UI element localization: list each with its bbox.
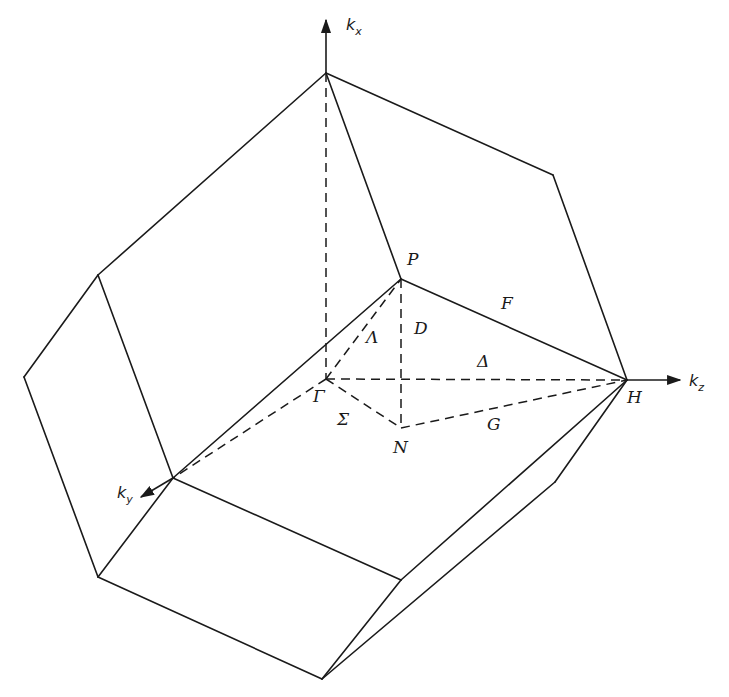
dashed-delta-gamma-H: [326, 379, 627, 380]
edge-upperleft-left: [24, 275, 98, 377]
edge-top-upperleft: [98, 73, 326, 275]
line-D-label: D: [413, 318, 428, 338]
edge-upperright-H: [553, 175, 627, 380]
edge-bottommid-H: [401, 380, 627, 580]
edge-midleft-bottomleft: [98, 478, 173, 577]
edge-rightlower-H: [555, 380, 627, 482]
edge-top-upperright: [326, 73, 553, 175]
dashed-gamma-midleft: [173, 379, 326, 478]
dashed-lambda-gamma-P: [326, 279, 401, 379]
edge-bottomleft-bottom: [98, 577, 322, 679]
line-sigma-label: Σ: [336, 409, 350, 429]
edge-bottom-rightlower: [322, 482, 555, 679]
line-lambda-label: Λ: [364, 327, 378, 347]
ky-label: ky: [117, 483, 133, 506]
edge-left-bottomleft: [24, 377, 98, 577]
edge-midleft-bottommid: [173, 478, 401, 580]
edge-top-P: [326, 73, 401, 279]
kz-label: kz: [689, 371, 704, 394]
dashed-G-N-H: [401, 380, 627, 428]
point-P-label: P: [406, 249, 419, 269]
edge-P-H: [401, 279, 627, 380]
line-G-label: G: [487, 414, 501, 434]
edge-P-midleft: [173, 279, 401, 478]
line-F-label: F: [500, 293, 514, 313]
line-delta-label: Δ: [476, 351, 489, 371]
point-N-label: N: [392, 437, 409, 457]
point-gamma-label: Γ: [312, 386, 326, 406]
brillouin-zone-diagram: kx kz ky P H N Γ Λ D F Δ Σ G: [0, 0, 729, 697]
edge-bottommid-bottom: [322, 580, 401, 679]
edge-upperleft-midleft: [98, 275, 173, 478]
point-H-label: H: [626, 387, 643, 407]
kx-label: kx: [346, 15, 362, 38]
ky-axis-arrow: [141, 478, 173, 497]
